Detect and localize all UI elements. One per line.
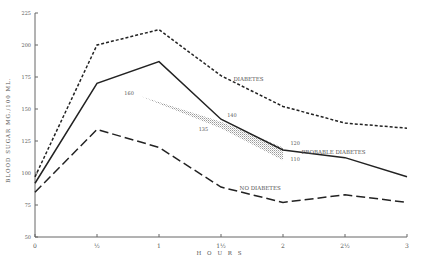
series-label: DIABETES [233, 76, 263, 82]
value-annotation: 120 [290, 140, 300, 146]
x-tick-label: 0 [33, 242, 37, 249]
x-tick-label: 1½ [216, 242, 226, 249]
value-annotation: 110 [290, 156, 300, 162]
y-tick-label: 175 [21, 74, 31, 80]
value-annotation: 135 [199, 126, 209, 132]
x-axis-title: H O U R S [197, 250, 244, 256]
y-axis-title: BLOOD SUGAR MG./100 ML. [5, 77, 11, 182]
value-annotation: 160 [124, 90, 134, 96]
series-label: NO DIABETES [240, 185, 281, 191]
y-tick-label: 150 [21, 106, 31, 112]
y-tick-label: 75 [25, 202, 31, 208]
x-tick-label: 2 [281, 242, 285, 249]
x-tick-label: 3 [405, 242, 409, 249]
y-tick-label: 50 [25, 234, 31, 240]
value-annotation: 140 [227, 112, 237, 118]
y-tick-label: 200 [21, 42, 31, 48]
y-tick-label: 100 [21, 170, 31, 176]
y-tick-label: 225 [21, 10, 31, 16]
chart-canvas: 50751001251501752002250½11½22½3H O U R S… [0, 0, 421, 266]
x-tick-label: 1 [157, 242, 161, 249]
series-lines [35, 30, 407, 203]
x-tick-label: 2½ [340, 242, 350, 249]
x-tick-label: ½ [94, 242, 100, 249]
glucose-tolerance-chart: 50751001251501752002250½11½22½3H O U R S… [0, 0, 421, 266]
y-tick-label: 125 [21, 138, 31, 144]
probable-range-band [140, 96, 283, 160]
series-no-diabetes [35, 129, 407, 202]
series-label: PROBABLE DIABETES [302, 149, 366, 155]
probable-range-band [140, 96, 283, 160]
